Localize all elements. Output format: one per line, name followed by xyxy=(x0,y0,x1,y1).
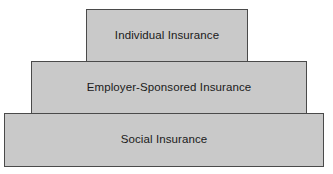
tier-label-social-insurance: Social Insurance xyxy=(121,134,208,146)
tier-label-individual-insurance: Individual Insurance xyxy=(115,30,219,42)
tier-individual-insurance[interactable]: Individual Insurance xyxy=(86,9,248,62)
tier-label-employer-sponsored-insurance: Employer-Sponsored Insurance xyxy=(87,82,252,94)
tier-social-insurance[interactable]: Social Insurance xyxy=(4,113,324,167)
tier-employer-sponsored-insurance[interactable]: Employer-Sponsored Insurance xyxy=(31,61,307,114)
insurance-tier-diagram: Individual Insurance Employer-Sponsored … xyxy=(0,0,333,174)
